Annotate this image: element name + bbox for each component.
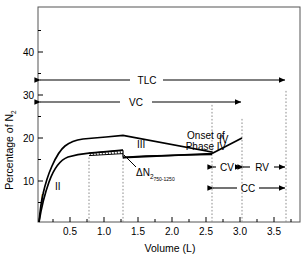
y-axis-title-subscript: 2 (10, 110, 17, 114)
x-tick-label: 2.0 (165, 226, 179, 237)
y-tick-label: 10 (23, 176, 35, 187)
plot-frame (38, 7, 300, 222)
span-label-vc: VC (129, 97, 143, 108)
span-label-tlc: TLC (138, 75, 157, 86)
svg-text:Percentage of N2: Percentage of N2 (3, 110, 17, 190)
nitrogen-washout-chart: 40 30 20 10 Percentage of N2 (0, 0, 307, 258)
x-tick-labels: 0.5 1.0 1.5 2.0 2.5 3.0 3.5 (63, 226, 281, 237)
x-tick-label: 3.5 (267, 226, 281, 237)
y-tick-labels: 40 30 20 10 (23, 47, 35, 187)
x-tick-label: 1.5 (131, 226, 145, 237)
x-tick-label: 3.0 (233, 226, 247, 237)
chart-figure: 40 30 20 10 Percentage of N2 (0, 0, 307, 258)
x-axis-title: Volume (L) (145, 242, 196, 254)
phase-label-ii: II (55, 181, 61, 192)
x-tick-label: 1.0 (97, 226, 111, 237)
phase-label-i: I (41, 193, 44, 204)
delta-n2-label-text: ΔN (136, 167, 150, 178)
x-tick-label: 2.5 (199, 226, 213, 237)
phase-label-iii: III (137, 139, 145, 150)
y-axis-title: Percentage of N2 (3, 110, 17, 190)
span-label-cc: CC (241, 183, 255, 194)
y-axis-title-text: Percentage of N (3, 114, 15, 190)
span-label-cv: CV (220, 162, 234, 173)
y-tick-label: 30 (23, 90, 35, 101)
span-label-rv: RV (255, 162, 269, 173)
y-tick-label: 20 (23, 133, 35, 144)
y-tick-label: 40 (23, 47, 35, 58)
phase-label-iv: IV (219, 134, 229, 145)
delta-n2-label-sub2: 750-1250 (154, 176, 175, 182)
x-tick-label: 0.5 (63, 226, 77, 237)
